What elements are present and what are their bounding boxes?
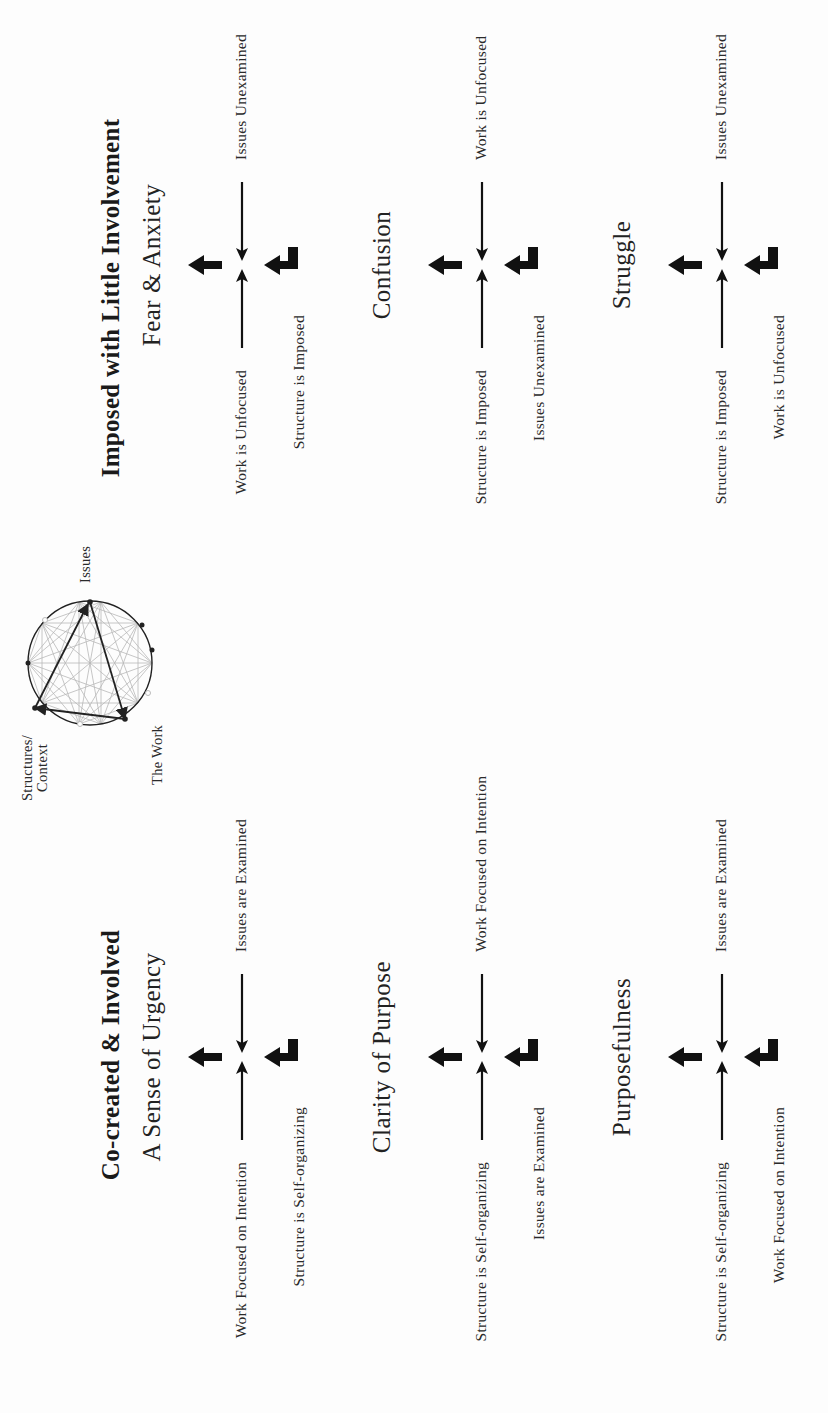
result-arrow-up xyxy=(668,1047,702,1067)
bottom-label: Structure is Imposed xyxy=(290,315,308,449)
diagram-label-structures-line1: Structures/ xyxy=(20,735,35,801)
right-label: Issues are Examined xyxy=(232,819,250,952)
bent-arrow xyxy=(744,1039,778,1067)
state-title: Clarity of Purpose xyxy=(368,961,396,1153)
left-label: Structure is Self-organizing xyxy=(712,1162,730,1341)
diagram-label-structures: Structures/ Context xyxy=(20,735,50,801)
nine-point-circle-icon xyxy=(20,593,160,733)
right-label: Issues Unexamined xyxy=(232,34,250,160)
force-arrows-icon xyxy=(722,264,723,265)
bottom-label: Issues are Examined xyxy=(530,1107,548,1240)
bottom-label: Work is Unfocused xyxy=(770,315,788,439)
result-arrow-up xyxy=(428,1047,462,1067)
left-label: Work is Unfocused xyxy=(232,370,250,494)
force-arrows-icon xyxy=(482,264,483,265)
bent-arrow xyxy=(744,247,778,275)
state-title: Confusion xyxy=(368,211,396,320)
diagram-label-structures-line2: Context xyxy=(35,735,50,801)
bottom-label: Structure is Self-organizing xyxy=(290,1107,308,1286)
force-arrows-icon xyxy=(242,264,243,265)
bent-arrow xyxy=(504,1039,538,1067)
bottom-label: Issues Unexamined xyxy=(530,315,548,441)
rotated-page: Co-created & Involved Imposed with Littl… xyxy=(0,0,828,1413)
result-arrow-up xyxy=(428,255,462,275)
state-title: A Sense of Urgency xyxy=(138,952,166,1161)
section-title-imposed: Imposed with Little Involvement xyxy=(97,119,125,478)
force-arrows-icon xyxy=(482,1056,483,1057)
force-arrows-icon xyxy=(722,1056,723,1057)
bent-arrow xyxy=(264,247,298,275)
right-label: Issues are Examined xyxy=(712,819,730,952)
left-label: Work Focused on Intention xyxy=(232,1162,250,1338)
right-label: Work Focused on Intention xyxy=(472,776,490,952)
left-label: Structure is Imposed xyxy=(712,370,730,504)
state-title: Fear & Anxiety xyxy=(138,184,166,347)
section-title-cocreated: Co-created & Involved xyxy=(97,930,125,1180)
diagram-label-issues: Issues xyxy=(78,546,93,583)
bottom-label: Work Focused on Intention xyxy=(770,1107,788,1283)
result-arrow-up xyxy=(668,255,702,275)
result-arrow-up xyxy=(188,255,222,275)
state-title: Purposefulness xyxy=(608,978,636,1136)
right-label: Issues Unexamined xyxy=(712,34,730,160)
bent-arrow xyxy=(264,1039,298,1067)
relationship-circle-diagram xyxy=(20,593,160,733)
right-label: Work is Unfocused xyxy=(472,36,490,160)
diagram-label-work: The Work xyxy=(150,725,165,785)
bent-arrow xyxy=(504,247,538,275)
result-arrow-up xyxy=(188,1047,222,1067)
left-label: Structure is Self-organizing xyxy=(472,1162,490,1341)
state-title: Struggle xyxy=(608,221,636,310)
left-label: Structure is Imposed xyxy=(472,370,490,504)
force-arrows-icon xyxy=(242,1056,243,1057)
